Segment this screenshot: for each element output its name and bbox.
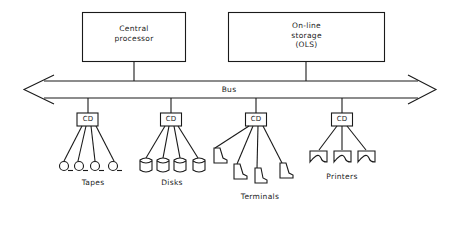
terminal-icon (234, 164, 247, 179)
disk-pack-icon (174, 158, 186, 172)
bus-label: Bus (214, 85, 244, 94)
cd-label-printers: CD (331, 113, 353, 126)
terminal-icon (280, 163, 293, 178)
cd-label-tapes: CD (77, 113, 99, 126)
printers-label: Printers (317, 172, 367, 181)
disk-pack-icon (157, 158, 169, 172)
printer-icon (334, 151, 351, 162)
online-storage-label: On-line storage (OLS) (228, 21, 385, 50)
tape-reel-icon (91, 162, 105, 171)
tapes-group (60, 126, 123, 171)
central-processor-label: Central processor (82, 24, 186, 43)
disks-label: Disks (147, 178, 197, 187)
tapes-label: Tapes (68, 178, 118, 187)
disk-pack-icon (140, 158, 152, 172)
printer-icon (310, 151, 327, 162)
cd-label-terminals: CD (245, 113, 267, 126)
tape-reel-icon (75, 162, 89, 171)
terminal-icon (255, 168, 267, 183)
tape-reel-icon (109, 162, 123, 171)
disks-group (140, 126, 205, 172)
cd-label-disks: CD (160, 113, 182, 126)
tape-reel-icon (60, 162, 74, 171)
terminals-label: Terminals (230, 192, 290, 201)
printers-group (310, 126, 375, 162)
printer-icon (358, 151, 375, 162)
terminal-icon (214, 148, 227, 163)
disk-pack-icon (193, 158, 205, 172)
terminals-group (214, 126, 293, 183)
